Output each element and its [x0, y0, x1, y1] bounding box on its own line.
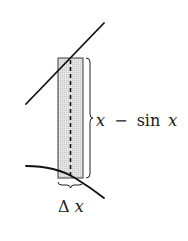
height-label-var1: x [96, 111, 105, 130]
height-brace-icon [86, 58, 93, 178]
width-label: Δ x [58, 197, 84, 216]
width-label-var: x [75, 197, 84, 216]
height-label-var2: x [168, 111, 177, 130]
width-brace-icon [58, 182, 83, 188]
height-label-func: sin [137, 111, 161, 130]
width-label-delta: Δ [58, 197, 70, 216]
height-label: x − sin x [96, 111, 177, 130]
height-label-operator: − [114, 111, 127, 130]
area-strip-diagram: x − sin x Δ x [0, 0, 188, 241]
